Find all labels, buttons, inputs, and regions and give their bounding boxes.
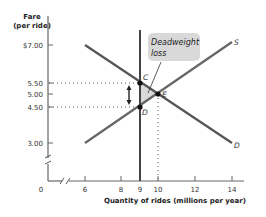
y-axis-label-line1: Fare <box>23 13 41 21</box>
supply-label: S <box>234 38 239 47</box>
x-tick-label: 6 <box>83 186 88 194</box>
y-tick-label: 4.50 <box>27 104 43 112</box>
deadweight-callout-line1: Deadweight <box>151 38 200 47</box>
y-ticks <box>48 45 53 143</box>
x-axis-label: Quantity of rides (millions per year) <box>104 197 246 205</box>
point-c <box>137 80 142 85</box>
x-tick-label: 10 <box>154 186 163 194</box>
deadweight-callout-pointer <box>148 62 161 93</box>
y-tick-label: 3.00 <box>27 140 43 148</box>
y-tick-label: 5.00 <box>27 91 43 99</box>
x-tick-label: 9 <box>138 186 142 194</box>
price-wedge-arrow <box>127 85 132 105</box>
x-tick-label: 8 <box>119 186 123 194</box>
y-axis-label-line2: (per ride) <box>13 22 51 30</box>
point-c-label: C <box>143 73 149 82</box>
point-e-label: E <box>162 90 167 99</box>
x-ticks <box>85 176 232 181</box>
demand-label: D <box>234 141 240 150</box>
point-d-label: D <box>142 108 148 117</box>
chart: Fare (per ride) $7.00 5.50 5.00 4.50 3.0… <box>0 0 266 217</box>
x-tick-label: 14 <box>228 186 237 194</box>
y-tick-label: 5.50 <box>27 80 43 88</box>
x-tick-label: 12 <box>191 186 200 194</box>
y-tick-label: $7.00 <box>23 42 43 50</box>
x-tick-label: 0 <box>39 186 43 194</box>
axis-break-marks <box>45 155 70 184</box>
deadweight-callout-line2: loss <box>151 49 166 58</box>
point-e <box>155 91 160 96</box>
